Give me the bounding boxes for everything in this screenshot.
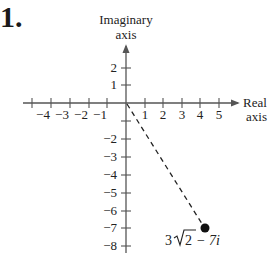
x-tick-label: 2 xyxy=(160,107,167,122)
x-tick-label: 3 xyxy=(179,107,186,122)
x-axis-title-line2: axis xyxy=(246,109,267,124)
x-tick-label: −3 xyxy=(55,107,69,122)
point-label: 3 2 − 7i xyxy=(165,230,220,248)
x-tick-label: −2 xyxy=(74,107,88,122)
plotted-point xyxy=(201,224,210,233)
point-label-suffix: − 7i xyxy=(196,233,220,248)
y-tick-label: −7 xyxy=(103,220,117,235)
x-tick-label: −1 xyxy=(93,107,107,122)
complex-plane-diagram: Imaginary axis Real axis −4 −3 −2 −1 1 2… xyxy=(0,0,280,260)
point-label-radicand: 2 xyxy=(185,233,192,248)
y-tick-label: −2 xyxy=(103,131,117,146)
y-tick-label: 1 xyxy=(111,77,118,92)
dashed-vector-line xyxy=(127,104,204,227)
x-tick-label: 5 xyxy=(216,107,223,122)
x-tick-label: −4 xyxy=(36,107,50,122)
y-tick-label: 2 xyxy=(111,60,118,75)
point-label-coefficient: 3 xyxy=(165,233,172,248)
x-axis-title-line1: Real xyxy=(243,95,267,110)
x-tick-label: 1 xyxy=(142,107,149,122)
x-tick-label: 4 xyxy=(197,107,204,122)
y-tick-label: −8 xyxy=(103,238,117,253)
y-axis-title-line1: Imaginary xyxy=(99,12,153,27)
y-tick-label: −5 xyxy=(103,185,117,200)
y-tick-label: −3 xyxy=(103,149,117,164)
y-tick-label: −6 xyxy=(103,203,117,218)
y-axis-title-line2: axis xyxy=(116,27,137,42)
y-tick-label: −4 xyxy=(103,167,117,182)
